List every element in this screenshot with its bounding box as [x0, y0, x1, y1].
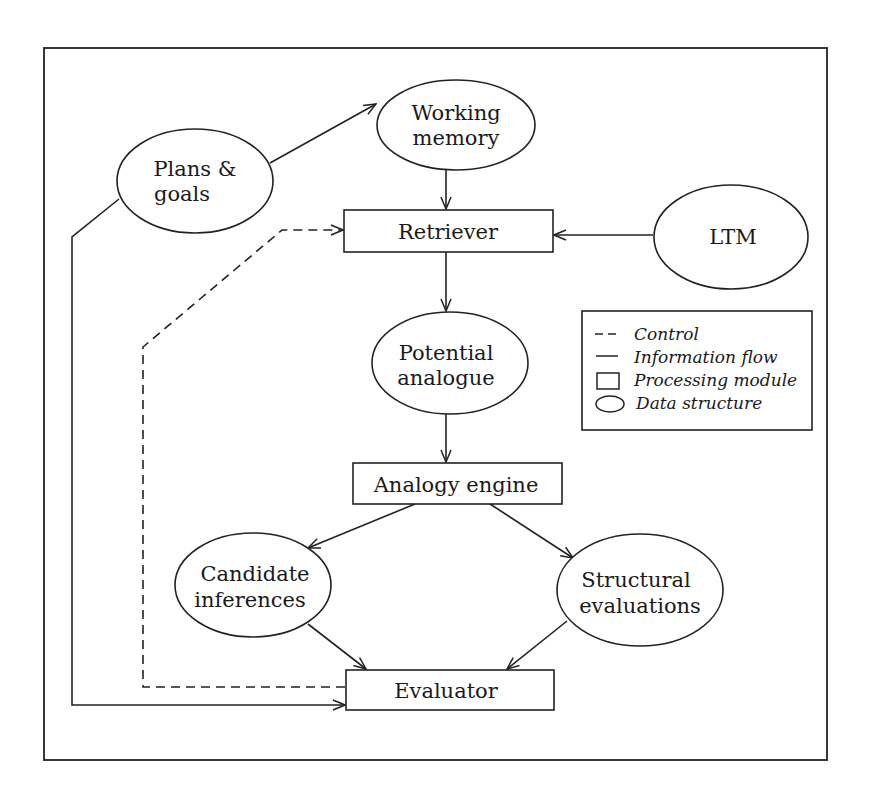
- node-structural-evaluations: Structural evaluations: [557, 534, 723, 646]
- legend-label: Processing module: [633, 370, 797, 390]
- node-ltm: LTM: [654, 185, 808, 289]
- node-label: Analogy engine: [373, 473, 539, 497]
- edge-structural-evaluations-to-evaluator: [507, 621, 567, 669]
- edge-candidate-inferences-to-evaluator: [308, 624, 366, 669]
- node-label: LTM: [709, 225, 757, 249]
- node-label-line: analogue: [397, 366, 494, 390]
- node-working-memory: Working memory: [377, 80, 535, 170]
- node-label: Retriever: [398, 220, 499, 244]
- edge-plans-to-working-memory: [270, 104, 376, 163]
- node-label-line: memory: [413, 126, 500, 150]
- node-label-line: goals: [154, 182, 210, 206]
- edge-analogy-engine-to-structural-evaluations: [490, 504, 573, 558]
- node-label-line: inferences: [194, 588, 305, 612]
- node-potential-analogue: Potential analogue: [372, 312, 528, 414]
- node-analogy-engine: Analogy engine: [353, 463, 562, 504]
- node-label-line: Structural: [581, 568, 691, 592]
- node-label-line: evaluations: [579, 594, 701, 618]
- edge-analogy-engine-to-candidate-inferences: [308, 504, 415, 548]
- node-label: Evaluator: [394, 679, 499, 703]
- node-evaluator: Evaluator: [346, 670, 554, 710]
- legend: Control Information flow Processing modu…: [582, 311, 812, 430]
- analogy-architecture-diagram: Working memory Plans & goals Retriever L…: [0, 0, 871, 801]
- legend-label: Information flow: [633, 347, 778, 367]
- edge-plans-to-evaluator: [72, 199, 345, 705]
- node-retriever: Retriever: [344, 210, 553, 252]
- node-candidate-inferences: Candidate inferences: [175, 533, 331, 637]
- legend-label: Control: [634, 324, 699, 344]
- node-label-line: Candidate: [200, 562, 309, 586]
- node-label-line: Potential: [399, 341, 494, 365]
- node-label-line: Working: [411, 101, 500, 125]
- legend-label: Data structure: [635, 393, 762, 413]
- node-plans-goals: Plans & goals: [117, 129, 273, 233]
- node-label-line: Plans &: [153, 157, 236, 181]
